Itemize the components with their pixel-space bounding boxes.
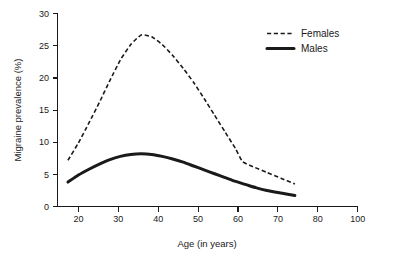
y-tick-label-5: 5 (44, 170, 49, 180)
x-tick-label-40: 40 (153, 214, 163, 224)
x-tick-label-80: 80 (313, 214, 323, 224)
x-tick-label-30: 30 (113, 214, 123, 224)
x-tick-label-70: 70 (273, 214, 283, 224)
y-tick-label-30: 30 (39, 9, 49, 19)
x-tick-label-50: 50 (193, 214, 203, 224)
chart-figure: 0 5 10 15 20 25 30 Migraine prevalence (… (0, 0, 405, 263)
x-tick-label-60: 60 (233, 214, 243, 224)
legend-label-females: Females (301, 28, 339, 39)
migraine-prevalence-line-chart: 0 5 10 15 20 25 30 Migraine prevalence (… (0, 0, 405, 263)
x-tick-label-100: 100 (350, 214, 365, 224)
y-axis-title: Migraine prevalence (%) (12, 59, 23, 162)
y-tick-label-15: 15 (39, 105, 49, 115)
y-tick-label-0: 0 (44, 202, 49, 212)
y-tick-label-20: 20 (39, 73, 49, 83)
legend-label-males: Males (301, 43, 328, 54)
y-tick-label-10: 10 (39, 137, 49, 147)
x-axis-title: Age (in years) (177, 238, 236, 249)
x-tick-label-20: 20 (73, 214, 83, 224)
y-tick-label-25: 25 (39, 41, 49, 51)
